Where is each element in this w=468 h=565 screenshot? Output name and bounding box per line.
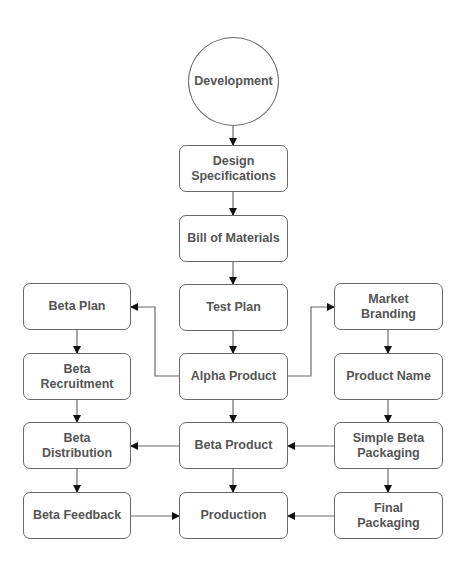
node-test-plan: Test Plan [179, 284, 288, 331]
node-label: Test Plan [206, 300, 261, 315]
node-product-name: Product Name [334, 353, 443, 400]
node-label: Final Packaging [357, 501, 420, 531]
node-production: Production [179, 492, 288, 539]
node-label: Product Name [346, 369, 431, 384]
node-simple-beta-packaging: Simple Beta Packaging [334, 422, 443, 469]
node-beta-recruitment: Beta Recruitment [23, 353, 131, 400]
node-label: Development [194, 74, 273, 89]
node-design-specifications: Design Specifications [179, 145, 288, 192]
node-market-branding: Market Branding [334, 283, 443, 330]
node-label: Beta Recruitment [41, 362, 114, 392]
node-label: Production [201, 508, 267, 523]
node-beta-plan: Beta Plan [23, 283, 131, 330]
node-beta-product: Beta Product [179, 422, 288, 469]
node-label: Beta Distribution [42, 431, 112, 461]
node-label: Design Specifications [191, 154, 276, 184]
arrow-alpha-product-to-beta-plan [131, 307, 179, 376]
node-label: Alpha Product [191, 369, 276, 384]
node-label: Beta Product [195, 438, 273, 453]
node-alpha-product: Alpha Product [179, 353, 288, 400]
node-beta-distribution: Beta Distribution [23, 422, 131, 469]
product-development-flowchart: DevelopmentDesign SpecificationsBill of … [0, 0, 468, 565]
node-label: Market Branding [361, 292, 416, 322]
node-development: Development [188, 37, 279, 126]
node-final-packaging: Final Packaging [334, 492, 443, 539]
node-label: Beta Feedback [33, 508, 121, 523]
arrow-alpha-product-to-market-branding [288, 307, 334, 376]
node-bill-of-materials: Bill of Materials [179, 215, 288, 262]
node-label: Simple Beta Packaging [353, 431, 425, 461]
node-beta-feedback: Beta Feedback [23, 492, 131, 539]
node-label: Bill of Materials [187, 231, 279, 246]
node-label: Beta Plan [49, 299, 106, 314]
